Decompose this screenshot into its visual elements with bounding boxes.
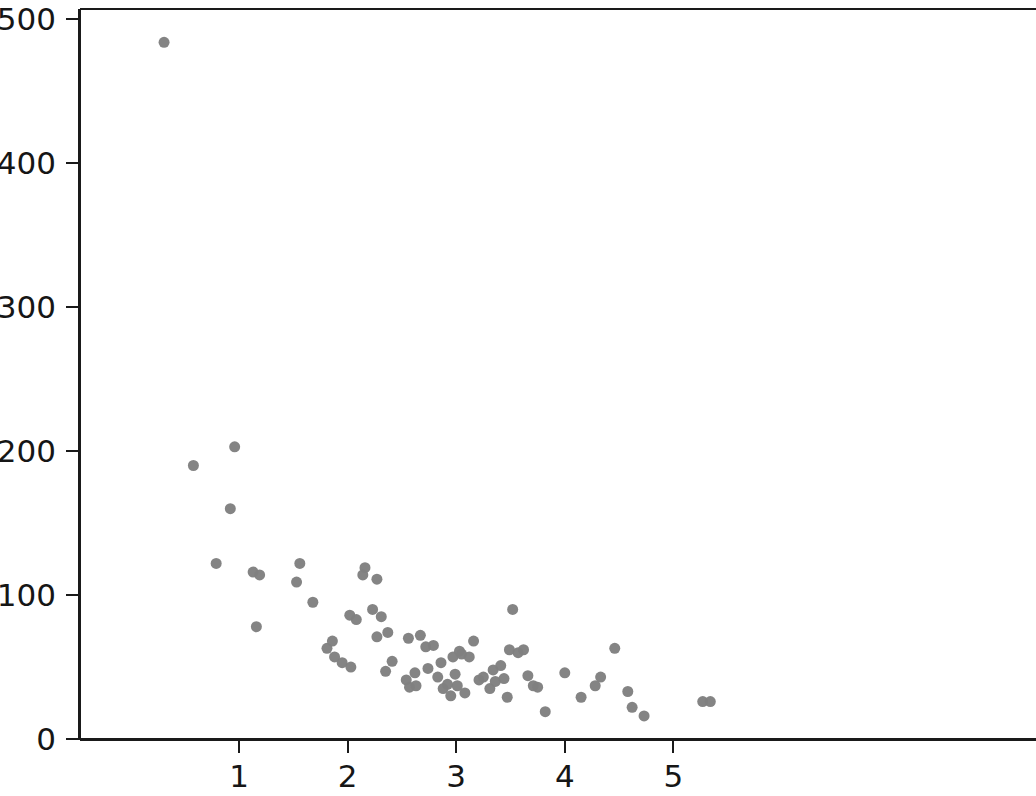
data-point <box>411 680 422 691</box>
data-point <box>422 663 433 674</box>
data-point <box>345 662 356 673</box>
data-point <box>445 690 456 701</box>
data-point <box>705 696 716 707</box>
data-point <box>532 682 543 693</box>
data-point <box>432 672 443 683</box>
data-point <box>327 636 338 647</box>
data-point <box>507 604 518 615</box>
data-point <box>459 687 470 698</box>
data-point <box>367 604 378 615</box>
data-point <box>627 702 638 713</box>
data-point <box>442 679 453 690</box>
data-point <box>371 574 382 585</box>
data-point <box>307 597 318 608</box>
x-tick-label: 1 <box>229 758 249 794</box>
data-point <box>371 631 382 642</box>
data-point <box>291 577 302 588</box>
data-point <box>229 441 240 452</box>
data-point <box>376 611 387 622</box>
data-point <box>415 630 426 641</box>
data-point <box>540 706 551 717</box>
data-point <box>522 670 533 681</box>
data-point <box>428 640 439 651</box>
data-point <box>409 667 420 678</box>
data-point <box>387 656 398 667</box>
data-point <box>380 666 391 677</box>
data-point <box>464 651 475 662</box>
data-point <box>251 621 262 632</box>
chart-figure: 0100200300400500 12345 <box>0 0 1036 796</box>
data-point <box>639 710 650 721</box>
y-tick-label: 0 <box>36 721 56 757</box>
y-tick-label: 200 <box>0 433 56 469</box>
data-point <box>622 686 633 697</box>
data-point <box>450 669 461 680</box>
scatter-plot-canvas: 0100200300400500 12345 <box>0 0 1036 796</box>
y-tick-label: 100 <box>0 577 56 613</box>
data-point <box>518 644 529 655</box>
y-tick-label: 300 <box>0 289 56 325</box>
data-point <box>357 569 368 580</box>
x-tick-label: 3 <box>446 758 466 794</box>
data-point <box>436 657 447 668</box>
data-point <box>495 660 506 671</box>
data-point <box>403 633 414 644</box>
data-point <box>254 569 265 580</box>
data-point <box>502 692 513 703</box>
data-point <box>225 503 236 514</box>
x-tick-label: 2 <box>338 758 358 794</box>
x-tick-label: 5 <box>664 758 684 794</box>
data-point <box>382 627 393 638</box>
x-tick-label: 4 <box>555 758 575 794</box>
data-point <box>576 692 587 703</box>
data-point <box>188 460 199 471</box>
data-point <box>595 672 606 683</box>
data-point <box>159 37 170 48</box>
data-point <box>351 614 362 625</box>
figure-background <box>0 0 1036 796</box>
data-point <box>559 667 570 678</box>
data-point <box>211 558 222 569</box>
y-tick-label: 500 <box>0 1 56 37</box>
data-point <box>468 636 479 647</box>
data-point <box>609 643 620 654</box>
data-point <box>294 558 305 569</box>
y-tick-label: 400 <box>0 145 56 181</box>
data-point <box>498 673 509 684</box>
data-point <box>478 672 489 683</box>
